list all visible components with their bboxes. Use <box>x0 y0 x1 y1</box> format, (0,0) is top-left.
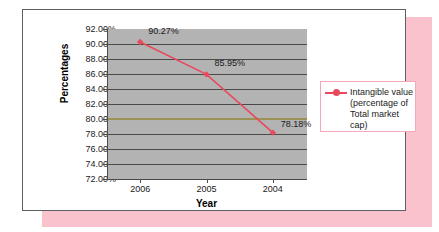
x-axis-tick-mark <box>273 179 274 183</box>
x-axis-tick-label: 2004 <box>243 184 303 194</box>
legend-item-label: Intangible value (percentage of Total ma… <box>350 87 415 131</box>
legend-item[interactable]: Intangible value (percentage of Total ma… <box>325 87 415 131</box>
x-axis-title: Year <box>107 198 306 209</box>
series-line <box>140 42 273 133</box>
data-point-label: 78.18% <box>281 119 312 129</box>
chart-card: Percentages 92.00%90.00%88.00%86.00%84.0… <box>22 9 406 211</box>
x-axis-tick-label: 2006 <box>110 184 170 194</box>
chart-screenshot: Percentages 92.00%90.00%88.00%86.00%84.0… <box>0 0 439 232</box>
data-point-label: 90.27% <box>148 26 179 36</box>
x-axis-tick-label: 2005 <box>177 184 237 194</box>
legend-marker-icon <box>325 88 347 98</box>
data-series <box>107 29 306 179</box>
x-axis-tick-mark <box>207 179 208 183</box>
chart-legend[interactable]: Intangible value (percentage of Total ma… <box>320 81 416 132</box>
data-point-label: 85.95% <box>215 58 246 68</box>
x-axis-tick-mark <box>140 179 141 183</box>
series-marker <box>137 39 143 45</box>
gridline <box>108 179 307 180</box>
